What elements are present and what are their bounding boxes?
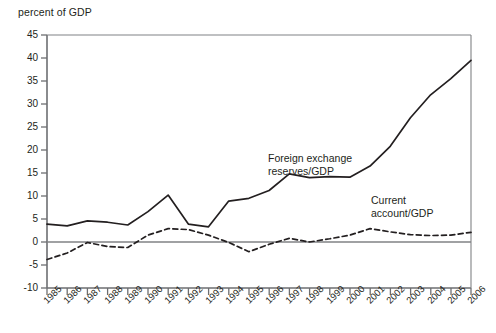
annotation-line-1: Current: [371, 194, 433, 207]
y-axis-ticks: [41, 35, 47, 288]
y-tick-label: 30: [8, 98, 38, 109]
y-tick-label: 15: [8, 167, 38, 178]
annotation-line-2: account/GDP: [371, 207, 433, 220]
annotation-line-2: reserves/GDP: [268, 165, 352, 178]
y-tick-label: 20: [8, 144, 38, 155]
y-tick-label: 25: [8, 121, 38, 132]
y-tick-label: 10: [8, 190, 38, 201]
y-tick-label: -5: [8, 259, 38, 270]
y-tick-label: 45: [8, 29, 38, 40]
y-tick-label: 35: [8, 75, 38, 86]
y-tick-label: 0: [8, 236, 38, 247]
annotation-line-1: Foreign exchange: [268, 152, 352, 165]
chart-axes: [47, 35, 471, 288]
y-tick-label: -10: [4, 282, 38, 293]
y-tick-label: 5: [8, 213, 38, 224]
series-line-current-account: [47, 229, 471, 260]
chart-figure: percent of GDP: [0, 0, 496, 333]
annotation-foreign-exchange-reserves: Foreign exchange reserves/GDP: [268, 152, 352, 177]
y-tick-label: 40: [8, 52, 38, 63]
annotation-current-account: Current account/GDP: [371, 194, 433, 219]
